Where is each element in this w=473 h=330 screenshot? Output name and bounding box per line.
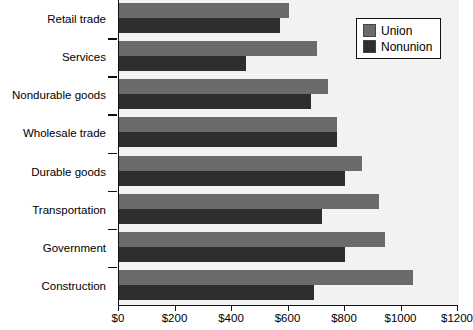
legend-label: Nonunion — [381, 41, 432, 53]
category-label-durable-goods: Durable goods — [0, 166, 106, 178]
x-tick-label-600: $600 — [275, 312, 301, 324]
x-tick-label-200: $200 — [162, 312, 188, 324]
x-tick — [288, 306, 289, 311]
bar-union-nondurable-goods — [119, 79, 328, 94]
bar-union-wholesale-trade — [119, 117, 337, 132]
value-axis: $0$200$400$600$800$1000$1200 — [118, 306, 458, 330]
bar-nonunion-durable-goods — [119, 171, 345, 186]
bar-union-government — [119, 232, 385, 247]
x-tick-label-1200: $1200 — [441, 312, 473, 324]
x-tick — [231, 306, 232, 311]
category-tick — [108, 76, 117, 78]
bar-nonunion-construction — [119, 285, 314, 300]
legend-label: Union — [381, 25, 412, 37]
category-label-nondurable-goods: Nondurable goods — [0, 89, 106, 101]
bar-nonunion-government — [119, 247, 345, 262]
category-label-government: Government — [0, 242, 106, 254]
x-tick-label-0: $0 — [112, 312, 125, 324]
category-label-retail-trade: Retail trade — [0, 13, 106, 25]
category-label-services: Services — [0, 51, 106, 63]
bar-nonunion-transportation — [119, 209, 322, 224]
x-tick — [344, 306, 345, 311]
category-tick — [108, 153, 117, 155]
category-tick — [108, 267, 117, 269]
bar-union-retail-trade — [119, 3, 289, 18]
legend-item-nonunion[interactable]: Nonunion — [363, 40, 432, 53]
bar-union-services — [119, 41, 317, 56]
bar-nonunion-wholesale-trade — [119, 132, 337, 147]
bar-union-transportation — [119, 194, 379, 209]
category-label-construction: Construction — [0, 280, 106, 292]
x-tick — [118, 306, 119, 311]
union-swatch-icon — [363, 24, 376, 37]
category-tick — [108, 191, 117, 193]
x-tick — [457, 306, 458, 311]
x-tick-label-1000: $1000 — [385, 312, 417, 324]
category-label-transportation: Transportation — [0, 204, 106, 216]
category-tick — [108, 229, 117, 231]
x-tick-label-400: $400 — [218, 312, 244, 324]
bar-nonunion-retail-trade — [119, 18, 280, 33]
bar-union-construction — [119, 270, 413, 285]
bar-nonunion-nondurable-goods — [119, 94, 311, 109]
category-axis: Retail tradeServicesNondurable goodsWhol… — [0, 0, 114, 306]
bar-union-durable-goods — [119, 156, 362, 171]
category-tick — [108, 38, 117, 40]
x-tick — [175, 306, 176, 311]
nonunion-swatch-icon — [363, 40, 376, 53]
x-tick — [401, 306, 402, 311]
x-tick-label-800: $800 — [331, 312, 357, 324]
category-tick — [108, 114, 117, 116]
bar-nonunion-services — [119, 56, 246, 71]
legend-item-union[interactable]: Union — [363, 24, 432, 37]
category-label-wholesale-trade: Wholesale trade — [0, 127, 106, 139]
chart-legend: UnionNonunion — [356, 18, 441, 59]
